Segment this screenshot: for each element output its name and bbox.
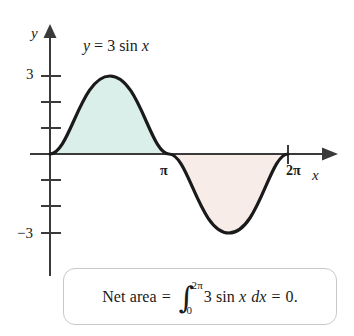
differential: dx bbox=[251, 288, 266, 306]
y-axis-arrowhead bbox=[44, 24, 57, 38]
y-axis-label: y bbox=[31, 26, 38, 41]
integral-lower-limit: 0 bbox=[187, 304, 198, 316]
equation-coefficient: 3 bbox=[107, 37, 115, 54]
integrand-function: sin bbox=[216, 288, 235, 306]
equation-lhs: y bbox=[83, 37, 90, 54]
net-area-caption-content: Net area = ∫ 2π 0 3 sin x dx = 0. bbox=[102, 280, 298, 314]
x-tick-label-pi: π bbox=[160, 164, 168, 178]
net-area-caption-box: Net area = ∫ 2π 0 3 sin x dx = 0. bbox=[63, 268, 337, 325]
y-tick-label-3: 3 bbox=[26, 67, 34, 82]
negative-area-fill bbox=[169, 154, 288, 233]
positive-area-fill bbox=[50, 76, 169, 154]
equation-variable: x bbox=[142, 37, 149, 54]
y-tick-label-negative-3: −3 bbox=[17, 226, 33, 241]
equation-equals: = bbox=[94, 37, 103, 54]
caption-result: 0. bbox=[286, 288, 298, 306]
x-axis-arrowhead bbox=[322, 148, 338, 161]
equation-function: sin bbox=[119, 37, 138, 54]
integrand-variable: x bbox=[239, 288, 246, 306]
sine-area-figure: y x 3 −3 π 2π y = 3 sin x Net area = ∫ 2… bbox=[0, 0, 354, 336]
curve-equation-label: y = 3 sin x bbox=[83, 38, 149, 54]
integral-expression: ∫ 2π 0 bbox=[179, 280, 203, 314]
x-tick-label-2pi: 2π bbox=[286, 164, 301, 178]
integral-upper-limit: 2π bbox=[192, 279, 203, 291]
caption-equals-first: = bbox=[162, 288, 171, 306]
caption-equals-second: = bbox=[271, 288, 280, 306]
x-axis-label: x bbox=[312, 168, 319, 183]
caption-lead-text: Net area bbox=[102, 288, 157, 306]
integrand-coefficient: 3 bbox=[204, 288, 212, 306]
